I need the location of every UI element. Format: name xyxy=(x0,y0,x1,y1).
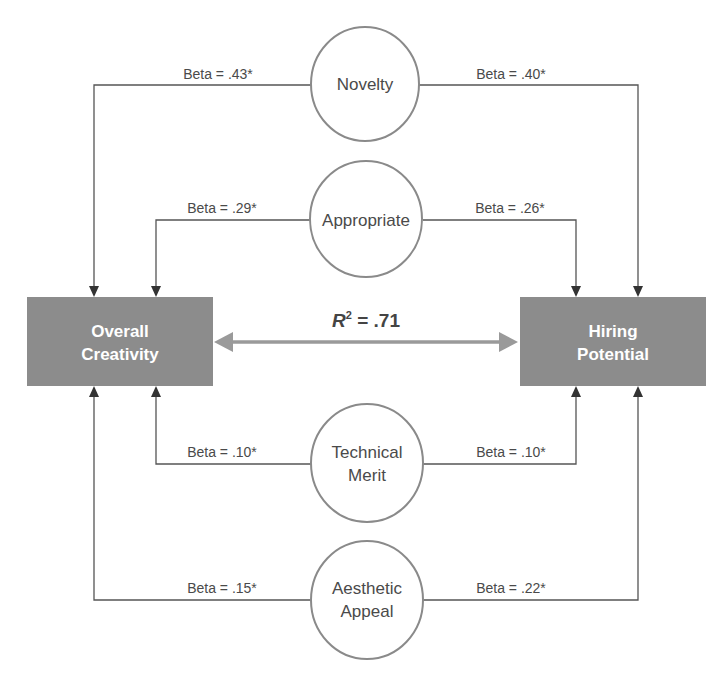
beta-label-aesthetic-creativity: Beta = .15* xyxy=(187,580,257,596)
beta-label-appropriate-hiring: Beta = .26* xyxy=(475,200,545,216)
predictor-label: Novelty xyxy=(337,75,394,94)
beta-label-aesthetic-hiring: Beta = .22* xyxy=(476,580,546,596)
arrowhead-icon xyxy=(89,286,99,297)
predictor-aesthetic-appeal: Aesthetic Appeal xyxy=(311,541,423,659)
arrowhead-icon xyxy=(571,386,581,397)
predictor-label: Merit xyxy=(348,466,386,485)
predictor-appropriate: Appropriate xyxy=(310,161,422,277)
beta-label-appropriate-creativity: Beta = .29* xyxy=(187,200,257,216)
outcome-label-line: Potential xyxy=(577,345,649,364)
predictor-technical-merit: Technical Merit xyxy=(311,404,423,522)
outcome-box-hiring-potential: Hiring Potential xyxy=(520,297,706,386)
path-novelty-to-hiring xyxy=(419,85,638,287)
arrowhead-icon xyxy=(151,286,161,297)
path-novelty-to-creativity xyxy=(94,85,311,287)
arrowhead-icon xyxy=(633,386,643,397)
outcome-label-line: Creativity xyxy=(81,345,159,364)
arrowhead-icon xyxy=(633,286,643,297)
arrowhead-left-icon xyxy=(214,332,233,352)
predictor-novelty: Novelty xyxy=(311,27,419,141)
correlation-double-arrow xyxy=(214,332,518,352)
beta-label-technical-hiring: Beta = .10* xyxy=(476,444,546,460)
path-diagram: Overall Creativity Hiring Potential R2 =… xyxy=(0,0,722,690)
arrowhead-icon xyxy=(151,386,161,397)
outcome-label-line: Overall xyxy=(91,322,149,341)
arrowhead-icon xyxy=(571,286,581,297)
r-squared-label: R2 = .71 xyxy=(332,309,400,331)
path-aesthetic-to-hiring xyxy=(423,397,638,600)
predictor-label: Technical xyxy=(332,443,403,462)
beta-label-novelty-creativity: Beta = .43* xyxy=(183,66,253,82)
outcome-box-overall-creativity: Overall Creativity xyxy=(27,297,213,386)
arrowhead-right-icon xyxy=(499,332,518,352)
outcome-label-line: Hiring xyxy=(588,322,637,341)
path-appropriate-to-hiring xyxy=(423,220,576,287)
path-appropriate-to-creativity xyxy=(156,220,310,287)
beta-label-novelty-hiring: Beta = .40* xyxy=(476,66,546,82)
arrowhead-icon xyxy=(89,386,99,397)
predictor-label: Appeal xyxy=(341,602,394,621)
predictor-label: Appropriate xyxy=(322,211,410,230)
path-aesthetic-to-creativity xyxy=(94,397,311,600)
predictor-label: Aesthetic xyxy=(332,579,402,598)
beta-label-technical-creativity: Beta = .10* xyxy=(187,444,257,460)
